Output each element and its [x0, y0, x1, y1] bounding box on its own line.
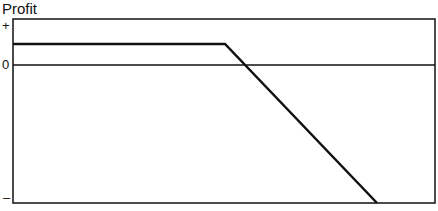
chart-plot: [0, 0, 438, 211]
plot-frame: [13, 19, 435, 203]
profit-line: [13, 44, 377, 203]
